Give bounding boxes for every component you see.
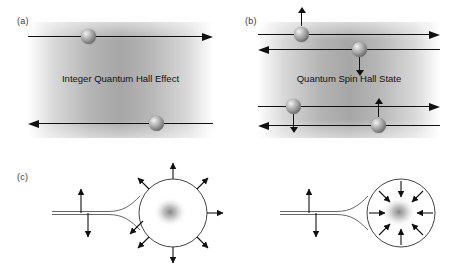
- spin-arrow-icon: [379, 224, 390, 235]
- arrowhead-left-icon: [258, 122, 269, 130]
- arrowhead-left-icon: [28, 120, 39, 128]
- panel-b-particle-bottom-left: [286, 99, 301, 114]
- spin-arrow-icon: [379, 191, 390, 202]
- channel-line: [258, 106, 429, 107]
- channel-line: [258, 34, 429, 35]
- panel-b-particle-top-left: [294, 27, 309, 42]
- channel-line: [28, 36, 202, 37]
- panel-a-particle-bottom: [149, 116, 164, 131]
- panel-c-diagram-inward: [280, 179, 435, 247]
- dirac-point-blob: [153, 197, 187, 227]
- panel-b-caption: Quantum Spin Hall State: [258, 73, 440, 84]
- arrowhead-right-icon: [429, 31, 440, 39]
- figure-canvas: (a) Integer Quantum Hall Effect (b): [0, 0, 455, 273]
- wire-double-line: [52, 196, 140, 230]
- panel-a-caption: Integer Quantum Hall Effect: [28, 73, 213, 84]
- arrowhead-left-icon: [258, 46, 269, 54]
- panel-label-a: (a): [17, 16, 29, 26]
- panel-b-top-channel-leftward: [258, 49, 440, 50]
- panel-a-bottom-edge-channel: [28, 123, 213, 124]
- wire-double-line: [280, 196, 368, 230]
- panel-b-top-channel-rightward: [258, 34, 440, 35]
- spin-arrow-icon: [138, 237, 149, 248]
- panel-a-particle-top: [81, 29, 96, 44]
- spin-arrow-icon: [197, 178, 208, 189]
- dirac-point-blob: [382, 197, 416, 227]
- arrowhead-right-icon: [202, 33, 213, 41]
- spin-arrow-icon: [197, 237, 208, 248]
- spin-arrow-icon: [412, 191, 423, 202]
- channel-line: [39, 123, 213, 124]
- panel-c-diagram-outward: [52, 163, 223, 263]
- panel-c-region: [0, 155, 455, 273]
- panel-b-particle-top-right: [352, 42, 367, 57]
- panel-b-bottom-channel-leftward: [258, 125, 440, 126]
- panel-b-region: Quantum Spin Hall State: [258, 22, 440, 138]
- panel-c-svg: [0, 155, 455, 273]
- spin-arrow-icon: [412, 224, 423, 235]
- panel-a-top-edge-channel: [28, 36, 213, 37]
- panel-a-region: Integer Quantum Hall Effect: [28, 22, 213, 138]
- arrowhead-right-icon: [429, 103, 440, 111]
- panel-b-particle-bottom-right: [371, 118, 386, 133]
- spin-arrow-icon: [138, 178, 149, 189]
- panel-label-b: (b): [245, 16, 257, 26]
